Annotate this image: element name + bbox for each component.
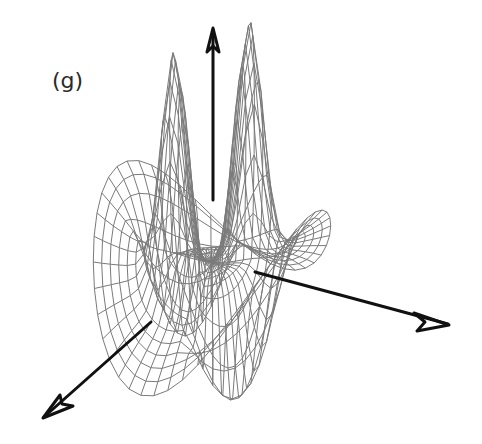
left-axis bbox=[44, 322, 151, 417]
mesh-spoke bbox=[212, 36, 326, 262]
surface-plot bbox=[0, 0, 482, 444]
right-axis-arrowhead-icon bbox=[414, 313, 449, 331]
